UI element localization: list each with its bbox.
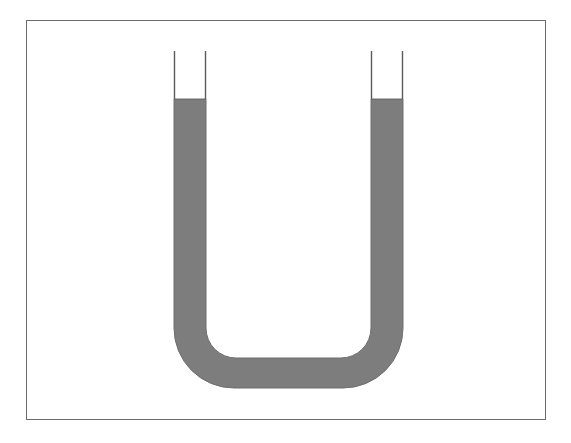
liquid-body-group — [174, 99, 403, 388]
figure-root: U-tube manometer A U-shaped glass tube p… — [0, 0, 571, 443]
empty-tube-walls-group — [175, 51, 403, 99]
liquid-u-band — [174, 99, 403, 388]
u-tube-manometer-diagram — [0, 0, 571, 443]
